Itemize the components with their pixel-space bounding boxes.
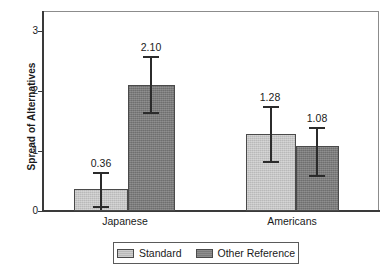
y-tick-mark-3 [38, 31, 43, 32]
y-tick-mark-2 [38, 91, 43, 92]
legend-label-other-reference: Other Reference [218, 248, 296, 259]
category-label-americans: Americans [237, 215, 347, 227]
errorbar-cap-top-japanese-standard [93, 172, 109, 174]
errorbar-stem-americans-standard [270, 106, 272, 163]
errorbar-cap-bottom-japanese-standard [93, 206, 109, 208]
errorbar-stem-japanese-other [150, 56, 152, 114]
errorbar-cap-top-americans-other [309, 127, 325, 129]
legend-swatch-standard-icon [117, 249, 134, 258]
bar-chart: 3 2 1 0 Spread of Alternatives 0.36 2.10… [0, 0, 392, 273]
errorbar-cap-bottom-americans-standard [263, 161, 279, 163]
legend-swatch-other-reference-icon [196, 249, 213, 258]
errorbar-stem-americans-other [316, 127, 318, 177]
errorbar-cap-top-americans-standard [263, 106, 279, 108]
y-axis-line [42, 11, 44, 212]
legend-label-standard: Standard [139, 248, 182, 259]
y-tick-mark-1 [38, 151, 43, 152]
value-label-americans-standard: 1.28 [250, 92, 290, 103]
errorbar-stem-japanese-standard [100, 172, 102, 210]
y-tick-mark-0 [38, 211, 43, 212]
errorbar-cap-top-japanese-other [143, 56, 159, 58]
value-label-japanese-other: 2.10 [131, 42, 171, 53]
legend-item-standard: Standard [117, 248, 182, 259]
y-tick-label-0: 0 [24, 206, 38, 216]
value-label-americans-other: 1.08 [297, 113, 337, 124]
legend-item-other-reference: Other Reference [196, 248, 296, 259]
category-label-japanese: Japanese [70, 215, 180, 227]
y-tick-label-3: 3 [24, 26, 38, 36]
y-axis-title: Spread of Alternatives [26, 37, 37, 197]
errorbar-cap-bottom-japanese-other [143, 112, 159, 114]
errorbar-cap-bottom-americans-other [309, 175, 325, 177]
value-label-japanese-standard: 0.36 [81, 158, 121, 169]
legend: Standard Other Reference [113, 242, 299, 264]
